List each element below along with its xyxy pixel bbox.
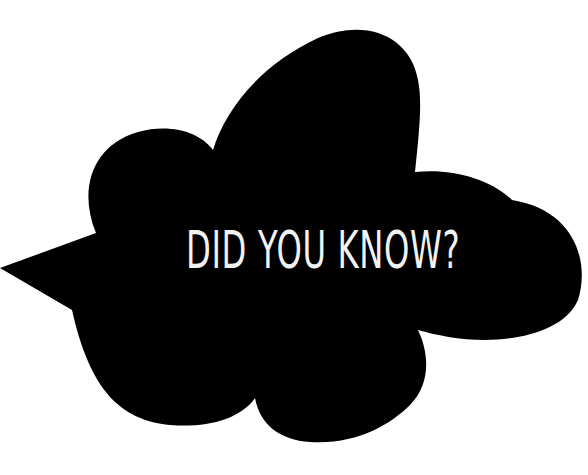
speech-bubble: DID YOU KNOW?: [0, 0, 588, 475]
bubble-caption: DID YOU KNOW?: [186, 215, 397, 285]
